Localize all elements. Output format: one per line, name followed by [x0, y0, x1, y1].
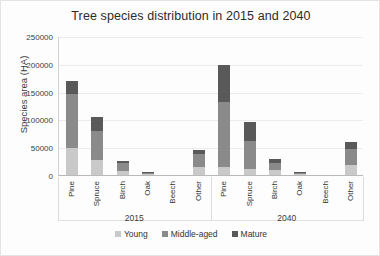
- legend-item-young[interactable]: Young: [115, 229, 148, 239]
- x-axis-tick-label: Other: [346, 181, 355, 201]
- y-axis-tick-label: 150000: [1, 88, 53, 97]
- bar-segment-mature: [66, 81, 78, 95]
- bar-segment-middle-aged: [269, 163, 281, 170]
- gridline: [59, 65, 363, 66]
- legend-label-young: Young: [124, 229, 148, 239]
- bar-segment-mature: [218, 65, 230, 102]
- legend-swatch-mature-icon: [232, 231, 238, 237]
- bar-2015-pine[interactable]: [66, 81, 78, 176]
- bar-segment-young: [218, 167, 230, 175]
- x-axis-tick-label: Birch: [270, 181, 279, 199]
- chart-container: Tree species distribution in 2015 and 20…: [0, 0, 380, 256]
- y-axis-tick-label: 100000: [1, 116, 53, 125]
- bar-segment-middle-aged: [91, 131, 103, 160]
- bar-segment-middle-aged: [193, 154, 205, 167]
- x-axis-tick-label: Spruce: [92, 181, 101, 206]
- gridline: [59, 37, 363, 38]
- bar-segment-mature: [244, 122, 256, 140]
- bar-segment-young: [142, 174, 154, 175]
- chart-title: Tree species distribution in 2015 and 20…: [1, 9, 380, 23]
- x-axis-group-label: 2015: [104, 213, 164, 223]
- bar-segment-young: [193, 167, 205, 175]
- x-axis-tick-label: Spruce: [245, 181, 254, 206]
- bar-segment-middle-aged: [244, 141, 256, 170]
- bar-segment-mature: [91, 117, 103, 131]
- gridline: [59, 93, 363, 94]
- legend-item-mature[interactable]: Mature: [232, 229, 267, 239]
- x-axis-tick-label: Pine: [219, 181, 228, 197]
- bar-2015-other[interactable]: [193, 150, 205, 175]
- x-axis-tick-label: Birch: [118, 181, 127, 199]
- bar-segment-middle-aged: [218, 102, 230, 167]
- y-axis-tick-label: 200000: [1, 60, 53, 69]
- x-axis-tick-label: Beech: [168, 181, 177, 204]
- bar-segment-young: [244, 169, 256, 175]
- group-separator: [58, 177, 59, 221]
- gridline: [59, 120, 363, 121]
- bar-segment-middle-aged: [345, 149, 357, 165]
- bar-segment-young: [294, 174, 306, 175]
- legend-item-middle-aged[interactable]: Middle-aged: [162, 229, 218, 239]
- y-axis-tick-label: 0: [1, 172, 53, 181]
- x-axis-tick-label: Other: [194, 181, 203, 201]
- bar-2015-oak[interactable]: [142, 172, 154, 175]
- legend-swatch-young-icon: [115, 231, 121, 237]
- bar-2040-other[interactable]: [345, 142, 357, 175]
- x-axis-tick-label: Oak: [295, 181, 304, 196]
- y-axis-tick-label: 250000: [1, 33, 53, 42]
- group-separator: [363, 177, 364, 221]
- legend-label-mature: Mature: [241, 229, 267, 239]
- legend-swatch-middle-aged-icon: [162, 231, 168, 237]
- bar-2040-oak[interactable]: [294, 172, 306, 175]
- bar-segment-young: [66, 148, 78, 175]
- plot-area: [58, 37, 363, 176]
- bar-2015-spruce[interactable]: [91, 117, 103, 175]
- bar-2040-birch[interactable]: [269, 159, 281, 175]
- bar-segment-middle-aged: [66, 94, 78, 148]
- group-separator: [211, 177, 212, 221]
- bar-2015-birch[interactable]: [117, 161, 129, 175]
- bar-2040-pine[interactable]: [218, 65, 230, 175]
- legend-label-middle-aged: Middle-aged: [171, 229, 218, 239]
- bar-segment-young: [117, 171, 129, 175]
- bar-segment-mature: [345, 142, 357, 149]
- bar-2040-spruce[interactable]: [244, 122, 256, 175]
- bar-segment-middle-aged: [117, 163, 129, 171]
- x-axis-tick-label: Oak: [143, 181, 152, 196]
- chart-legend: Young Middle-aged Mature: [1, 229, 380, 239]
- bar-segment-young: [269, 170, 281, 175]
- y-axis-tick-label: 50000: [1, 144, 53, 153]
- bar-segment-young: [91, 160, 103, 175]
- x-axis-group-label: 2040: [257, 213, 317, 223]
- x-axis-tick-label: Pine: [67, 181, 76, 197]
- gridline: [59, 148, 363, 149]
- bar-segment-young: [345, 165, 357, 175]
- x-axis-tick-label: Beech: [321, 181, 330, 204]
